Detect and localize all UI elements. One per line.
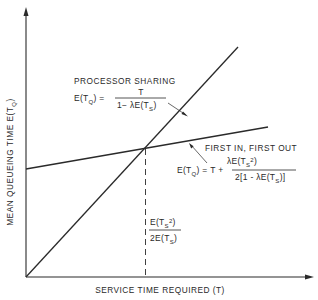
ps-numerator: T [138,87,144,97]
ps-denominator: 1− λE(TS) [117,100,157,112]
fifo-lhs: E(TQ) = T + [177,165,223,177]
ps-title: PROCESSOR SHARING [74,76,176,86]
fifo-denominator: 2[1 - λE(TS)] [235,172,285,184]
queueing-diagram: MEAN QUEUEING TIME E(TQ) SERVICE TIME RE… [0,0,318,300]
fifo-title: FIRST IN, FIRST OUT [205,143,297,153]
y-axis-label: MEAN QUEUEING TIME E(TQ) [5,98,17,226]
x-axis-label: SERVICE TIME REQUIRED (T) [95,285,225,295]
x-mark-numerator: E(TS2) [150,217,176,229]
x-mark-denominator: 2E(TS) [150,233,177,245]
ps-lhs: E(TQ) = [74,93,105,105]
x-axis-arrow-icon [305,275,314,280]
fifo-numerator: λE(TS2) [227,156,257,168]
y-axis-arrow-icon [24,7,29,16]
